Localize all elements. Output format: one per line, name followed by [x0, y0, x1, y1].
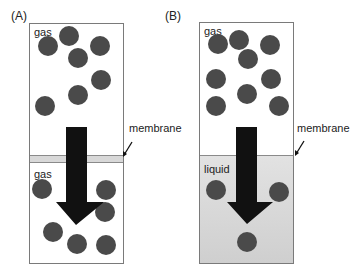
arrows-overlay [0, 0, 363, 277]
panel-b-diffusion-arrow-icon [227, 127, 273, 224]
panel-b-membrane-pointer-icon [295, 141, 304, 156]
panel-a-diffusion-arrow-icon [56, 127, 104, 225]
panel-a-membrane-pointer-icon [123, 142, 132, 157]
